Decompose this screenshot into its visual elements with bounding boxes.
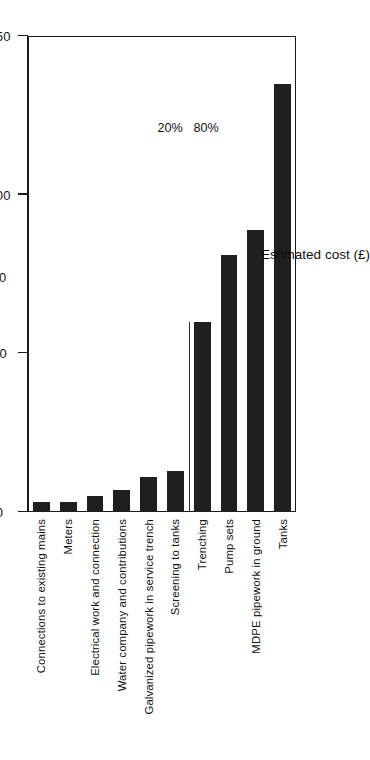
category-label: Connections to existing mains bbox=[35, 519, 47, 673]
bar bbox=[60, 502, 77, 512]
percent-annotation: 80% bbox=[193, 121, 218, 135]
category-label: Trenching bbox=[196, 519, 208, 570]
percent-annotation: 20% bbox=[157, 121, 182, 135]
axis-tick bbox=[18, 511, 28, 512]
category-label: MDPE pipework in ground bbox=[250, 519, 262, 654]
pareto-divider-line bbox=[189, 322, 190, 512]
bar bbox=[113, 490, 130, 512]
axis-tick bbox=[18, 352, 28, 353]
bar bbox=[194, 322, 211, 512]
category-label: Water company and contributions bbox=[116, 519, 128, 691]
axis-tick-label: 150 bbox=[0, 29, 11, 44]
axis-tick-label: 50 bbox=[0, 346, 7, 361]
value-axis-title: Estimated cost (£) bbox=[261, 248, 370, 263]
category-label: Screening to tanks bbox=[169, 519, 181, 615]
category-label: Electrical work and connection bbox=[89, 519, 101, 676]
bar bbox=[33, 502, 50, 512]
bar bbox=[247, 230, 264, 512]
bar bbox=[274, 84, 291, 512]
bar bbox=[87, 496, 104, 512]
axis-tick bbox=[18, 35, 28, 36]
category-label: Galvanized pipework in service trench bbox=[143, 519, 155, 715]
category-label: Meters bbox=[62, 519, 74, 554]
axis-unit-label: 000 bbox=[0, 270, 6, 285]
category-label: Pump sets bbox=[223, 519, 235, 574]
category-label: Tanks bbox=[277, 519, 289, 549]
bar bbox=[140, 477, 157, 512]
bar bbox=[167, 471, 184, 512]
axis-tick-label: 100 bbox=[0, 187, 11, 202]
bar bbox=[221, 255, 238, 512]
axis-tick-label: 0 bbox=[0, 505, 3, 520]
axis-tick bbox=[18, 193, 28, 194]
